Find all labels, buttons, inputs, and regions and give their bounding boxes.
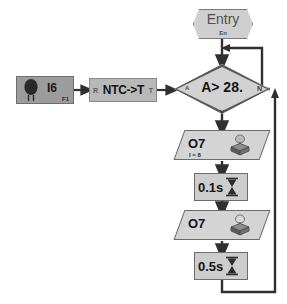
flowchart-canvas: Entry En I6 F1 R NTC->T T A> 28. A N Y	[0, 0, 287, 304]
timer-node-1-label: 0.1s	[198, 181, 223, 194]
process-node[interactable]: R NTC->T T	[89, 78, 157, 102]
process-input-port: R	[93, 87, 98, 94]
output-node-1-label: O7	[188, 137, 205, 150]
ntc-thermistor-icon	[17, 76, 45, 104]
sensor-input-node[interactable]: I6 F1	[16, 76, 74, 104]
decision-no-label: N	[257, 85, 262, 92]
hourglass-icon	[224, 256, 240, 276]
relay-output-icon	[228, 214, 252, 236]
decision-input-port: A	[185, 85, 189, 91]
timer-node-1[interactable]: 0.1s	[194, 173, 248, 201]
process-label: NTC->T	[103, 84, 144, 96]
process-output-port: T	[149, 87, 153, 94]
entry-label: Entry	[194, 12, 252, 26]
output-node-2-content: O7	[180, 211, 264, 239]
decision-yes-label: Y	[174, 109, 270, 116]
entry-hexagon-icon: Entry En	[193, 9, 253, 39]
decision-no-arrowhead	[221, 44, 230, 52]
sensor-sublabel: F1	[62, 96, 69, 102]
entry-sublabel: En	[194, 30, 252, 36]
timer-node-2[interactable]: 0.5s	[194, 252, 248, 280]
decision-node[interactable]: A> 28. A N Y	[174, 64, 270, 114]
relay-output-icon	[228, 134, 252, 156]
timer-node-2-label: 0.5s	[198, 260, 223, 273]
output-node-1-content: O7 I = 8	[180, 131, 264, 159]
hourglass-icon	[224, 177, 240, 197]
output-node-1[interactable]: O7 I = 8	[174, 130, 271, 160]
output-node-1-sublabel: I = 8	[189, 152, 201, 158]
output-node-2-label: O7	[188, 217, 205, 230]
sensor-label: I6	[47, 82, 57, 94]
entry-node[interactable]: Entry En	[193, 9, 251, 37]
loop-back-arrowhead	[271, 88, 279, 98]
output-node-2[interactable]: O7	[174, 210, 271, 240]
